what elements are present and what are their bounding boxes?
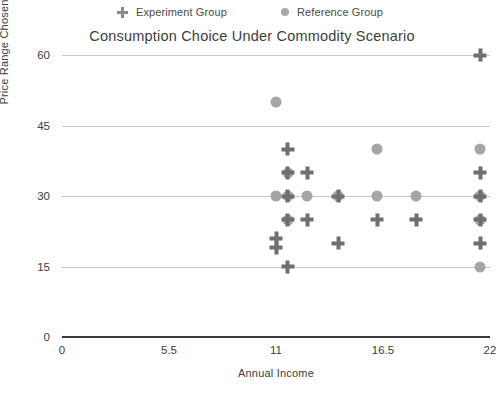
data-point-reference [302,191,313,202]
legend-item-experiment-group[interactable]: Experiment Group [117,6,227,18]
data-point-experiment [474,166,487,179]
plus-marker-icon [117,7,128,18]
data-point-experiment [301,213,314,226]
data-point-experiment [474,190,487,203]
y-axis-label: Price Range Chosen [0,0,10,122]
scatter-chart: Experiment Group Reference Group Consump… [0,0,504,395]
data-point-experiment [281,190,294,203]
y-axis-tick-label: 30 [16,190,50,202]
data-point-experiment [474,213,487,226]
gridline [62,267,490,268]
data-point-experiment [474,49,487,62]
x-axis-tick-label: 0 [59,344,65,356]
legend-label-reference-group: Reference Group [297,6,383,18]
y-axis-tick-label: 60 [16,49,50,61]
x-axis-line [62,336,490,338]
data-point-experiment [332,237,345,250]
data-point-reference [271,97,282,108]
data-point-reference [271,191,282,202]
x-axis-tick-labels: 05.51116.522 [62,344,490,360]
x-axis-tick-label: 11 [270,344,282,356]
y-axis-tick-label: 15 [16,261,50,273]
gridline [62,55,490,56]
x-axis-tick-label: 16.5 [372,344,394,356]
data-point-reference [372,191,383,202]
chart-legend: Experiment Group Reference Group [0,4,504,24]
y-axis-tick-label: 45 [16,120,50,132]
plot-area [62,55,490,337]
data-point-experiment [281,143,294,156]
data-point-reference [475,261,486,272]
data-point-experiment [332,190,345,203]
gridline [62,126,490,127]
data-point-reference [411,191,422,202]
data-point-experiment [281,260,294,273]
chart-title: Consumption Choice Under Commodity Scena… [0,28,504,44]
data-point-experiment [371,213,384,226]
y-axis-tick-label: 0 [16,331,50,343]
legend-label-experiment-group: Experiment Group [136,6,227,18]
legend-item-reference-group[interactable]: Reference Group [281,6,383,18]
x-axis-tick-label: 5.5 [161,344,177,356]
data-point-experiment [270,241,283,254]
data-point-reference [475,144,486,155]
x-axis-tick-label: 22 [484,344,497,356]
data-point-experiment [474,237,487,250]
y-axis-tick-labels: 015304560 [16,55,50,337]
data-point-experiment [281,213,294,226]
x-axis-label: Annual Income [62,367,490,379]
data-point-experiment [410,213,423,226]
data-point-experiment [301,166,314,179]
circle-marker-icon [281,8,289,16]
data-point-experiment [281,166,294,179]
data-point-reference [372,144,383,155]
